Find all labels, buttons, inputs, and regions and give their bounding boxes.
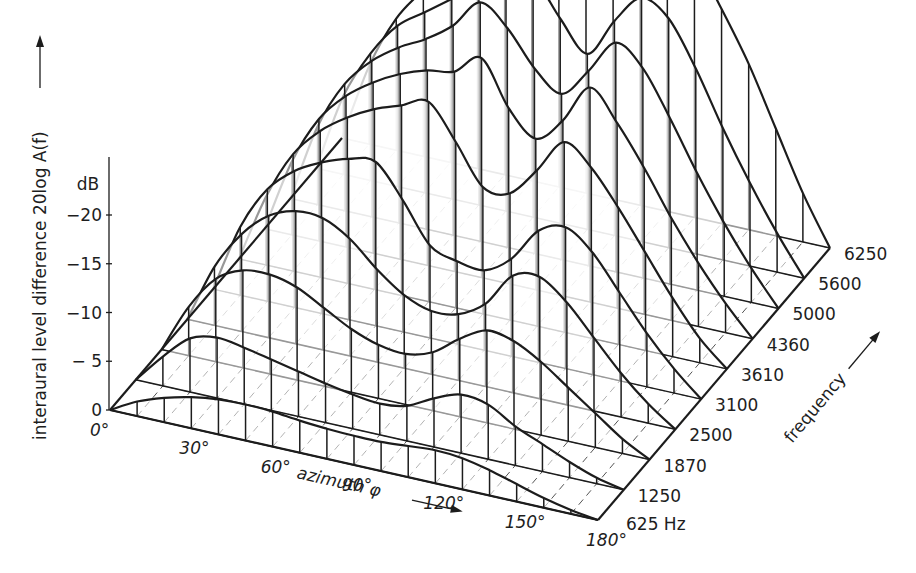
z-axis: 0− 5−10−15−20 dB (66, 157, 112, 420)
z-tick-label: 0 (91, 400, 102, 420)
z-axis-title-text: interaural level difference 20log A(f) (30, 131, 50, 440)
frequency-tick-label: 3100 (715, 395, 758, 415)
frequency-arrow-shaft (849, 337, 875, 368)
frequency-tick-label: 3610 (741, 365, 784, 385)
frequency-tick-label: 1250 (638, 486, 681, 506)
frequency-tick-label: 625 Hz (626, 514, 686, 534)
z-unit-label: dB (77, 174, 99, 194)
azimuth-tick-label: 60° (261, 457, 291, 477)
z-tick-label: −20 (66, 205, 102, 225)
waterfall-chart: 0− 5−10−15−20 dB interaural level differ… (0, 0, 916, 573)
frequency-axis-title-text: frequency (780, 368, 850, 446)
frequency-tick-label: 5600 (818, 274, 861, 294)
azimuth-tick-label: 30° (179, 438, 209, 458)
z-tick-label: −15 (66, 254, 102, 274)
z-tick-label: −10 (66, 303, 102, 323)
frequency-tick-label: 2500 (689, 425, 732, 445)
frequency-tick-label: 5000 (792, 304, 835, 324)
z-tick-label: − 5 (72, 351, 102, 371)
frequency-tick-label: 1870 (664, 456, 707, 476)
frequency-tick-label: 6250 (844, 244, 887, 264)
azimuth-tick-label: 150° (505, 512, 546, 532)
azimuth-tick-label: 0° (90, 420, 109, 440)
z-arrow-head-icon (36, 35, 44, 47)
azimuth-tick-label: 180° (586, 530, 627, 550)
z-axis-title: interaural level difference 20log A(f) (30, 35, 50, 440)
frequency-tick-label: 4360 (767, 335, 810, 355)
z-axis-ticks: 0− 5−10−15−20 (66, 205, 112, 420)
